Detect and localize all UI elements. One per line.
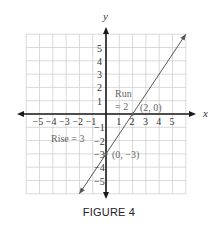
y-tick-label: 3 (97, 69, 102, 80)
x-tick-label: −4 (46, 116, 57, 127)
y-tick-label: 4 (97, 56, 102, 67)
rise-label: Rise = 3 (51, 133, 84, 144)
run-value-label: = 2 (115, 101, 128, 112)
y-axis-label: y (102, 10, 108, 22)
intercept-point (104, 152, 107, 155)
x-tick-label: −2 (72, 116, 83, 127)
x-tick-label: 4 (156, 116, 161, 127)
run-label: Run (115, 88, 132, 99)
annotations: x y Run = 2 Rise = 3 (2, 0) (0, −3) (51, 10, 208, 161)
x-axis-label: x (202, 107, 208, 119)
x-tick-label: 5 (170, 116, 175, 127)
intercept-point (131, 112, 134, 115)
figure-caption: FIGURE 4 (0, 206, 218, 218)
line-upper-arrow-icon (180, 34, 185, 40)
x-axis-right-arrow-icon (189, 111, 196, 117)
axes (17, 27, 196, 199)
coordinate-plane: −5−4−3−2−11234554321−1−2−3−4−5 x y Run =… (0, 0, 218, 206)
x-intercept-label: (2, 0) (140, 102, 162, 114)
x-tick-label: 3 (143, 116, 148, 127)
y-tick-label: −5 (94, 176, 105, 187)
x-tick-label: −3 (59, 116, 70, 127)
y-tick-label: 1 (97, 96, 102, 107)
x-axis-left-arrow-icon (17, 111, 24, 117)
y-axis-down-arrow-icon (103, 192, 109, 199)
y-tick-label: 2 (97, 82, 102, 93)
line-lower-arrow-icon (79, 187, 84, 193)
x-tick-label: 1 (116, 116, 121, 127)
y-tick-label: −2 (94, 136, 105, 147)
x-tick-label: −5 (33, 116, 44, 127)
y-tick-label: −1 (94, 122, 105, 133)
y-tick-label: 5 (97, 43, 102, 54)
y-axis-up-arrow-icon (103, 27, 109, 34)
figure: −5−4−3−2−11234554321−1−2−3−4−5 x y Run =… (0, 0, 218, 229)
y-intercept-label: (0, −3) (112, 149, 139, 161)
